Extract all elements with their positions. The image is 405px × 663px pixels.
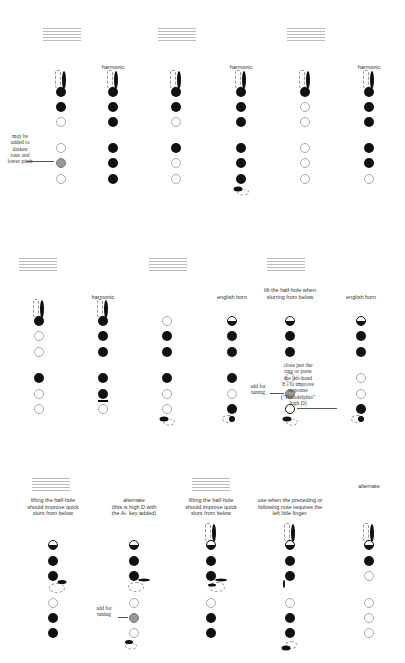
staff-line xyxy=(287,31,325,32)
staff-line xyxy=(192,490,230,491)
column-label: harmonic xyxy=(92,294,115,301)
tone-hole-open-icon xyxy=(356,373,366,383)
tone-hole-closed-icon xyxy=(356,347,366,357)
tone-hole-open-icon xyxy=(129,628,139,638)
staff-line xyxy=(149,264,187,265)
tone-hole-open-icon xyxy=(48,598,58,608)
side-key-closed-icon xyxy=(208,584,216,587)
column-label: slurs from below xyxy=(33,510,73,517)
tone-hole-closed-icon xyxy=(171,102,181,112)
column-label: harmonic xyxy=(102,64,125,71)
tone-hole-closed-icon xyxy=(206,556,216,566)
tone-hole-closed-icon xyxy=(108,117,118,127)
staff-line xyxy=(267,264,305,265)
tone-hole-closed-icon xyxy=(227,347,237,357)
tone-hole-closed-icon xyxy=(364,556,374,566)
tone-hole-open-icon xyxy=(56,143,66,153)
music-staff xyxy=(158,28,196,42)
ring-bar-icon xyxy=(98,400,108,402)
tone-hole-closed-icon xyxy=(206,613,216,623)
side-key-closed-icon xyxy=(215,579,227,582)
low-key-closed-icon xyxy=(125,640,133,644)
side-key-closed-icon xyxy=(58,580,67,584)
tone-hole-closed-icon xyxy=(162,331,172,341)
tone-hole-open-icon xyxy=(162,316,172,326)
music-staff xyxy=(32,478,70,492)
tone-hole-closed-icon xyxy=(48,556,58,566)
tone-hole-open-icon xyxy=(300,174,310,184)
tone-hole-half-icon xyxy=(285,316,295,326)
octave-key-open-icon xyxy=(97,299,103,317)
tone-hole-half-icon xyxy=(285,540,295,550)
tone-hole-closed-icon xyxy=(56,102,66,112)
tone-hole-closed-icon xyxy=(98,316,108,326)
tone-hole-open-icon xyxy=(171,174,181,184)
tone-hole-closed-icon xyxy=(171,143,181,153)
octave-key-open-icon xyxy=(299,70,305,88)
tone-hole-closed-icon xyxy=(108,143,118,153)
tone-hole-open-icon xyxy=(98,404,108,414)
staff-line xyxy=(267,270,305,271)
staff-line xyxy=(149,267,187,268)
tone-hole-closed-icon xyxy=(98,373,108,383)
music-staff xyxy=(267,258,305,272)
tone-hole-open-icon xyxy=(300,158,310,168)
tone-hole-open-icon xyxy=(34,404,44,414)
side-key-closed-icon xyxy=(138,579,150,582)
tone-hole-closed-icon xyxy=(236,102,246,112)
column-label: slurring from below xyxy=(267,294,313,301)
low-key-closed-icon xyxy=(358,416,364,422)
tone-hole-closed-icon xyxy=(285,628,295,638)
low-key-closed-icon xyxy=(283,417,292,422)
tone-hole-closed-icon xyxy=(34,316,44,326)
tone-hole-open-icon xyxy=(285,598,295,608)
tone-hole-open-icon xyxy=(364,613,374,623)
music-staff xyxy=(192,478,230,492)
octave-key-open-icon xyxy=(33,299,39,317)
staff-line xyxy=(158,40,196,41)
octave-key-open-icon xyxy=(55,70,61,88)
tone-hole-closed-icon xyxy=(364,87,374,97)
tone-hole-gray-icon xyxy=(56,158,66,168)
annotation-arrow xyxy=(118,617,128,618)
tone-hole-half-icon xyxy=(356,316,366,326)
tone-hole-half-icon xyxy=(227,316,237,326)
staff-line xyxy=(192,481,230,482)
tone-hole-open-icon xyxy=(129,598,139,608)
tone-hole-closed-icon xyxy=(285,556,295,566)
octave-key-open-icon xyxy=(235,70,241,88)
side-key-open-icon xyxy=(128,582,144,592)
staff-line xyxy=(32,481,70,482)
tone-hole-closed-icon xyxy=(206,628,216,638)
octave-key-open-icon xyxy=(205,523,211,541)
tone-hole-closed-icon xyxy=(236,143,246,153)
tone-hole-closed-icon xyxy=(162,347,172,357)
staff-line xyxy=(158,37,196,38)
staff-line xyxy=(192,484,230,485)
staff-line xyxy=(287,37,325,38)
tone-hole-closed-icon xyxy=(48,571,58,581)
tone-hole-closed-icon xyxy=(48,613,58,623)
tone-hole-closed-icon xyxy=(98,389,108,399)
tone-hole-closed-icon xyxy=(236,87,246,97)
staff-line xyxy=(19,270,57,271)
tone-hole-open-icon xyxy=(34,389,44,399)
staff-line xyxy=(32,487,70,488)
octave-key-open-icon xyxy=(107,70,113,88)
tone-hole-closed-icon xyxy=(227,373,237,383)
annotation-text-add-for-tuning-2: tuning xyxy=(86,611,122,618)
staff-line xyxy=(287,34,325,35)
column-label: alternate xyxy=(358,483,379,490)
tone-hole-closed-icon xyxy=(108,87,118,97)
tone-hole-half-icon xyxy=(48,540,58,550)
annotation-text-close-ring: high D) xyxy=(280,400,316,407)
tone-hole-closed-icon xyxy=(98,331,108,341)
tone-hole-open-icon xyxy=(300,102,310,112)
music-staff xyxy=(19,258,57,272)
tone-hole-open-icon xyxy=(162,389,172,399)
tone-hole-open-icon xyxy=(356,389,366,399)
tone-hole-closed-icon xyxy=(356,331,366,341)
low-key-closed-icon xyxy=(229,416,235,422)
column-label: left little finger. xyxy=(272,510,307,517)
tone-hole-closed-icon xyxy=(108,102,118,112)
